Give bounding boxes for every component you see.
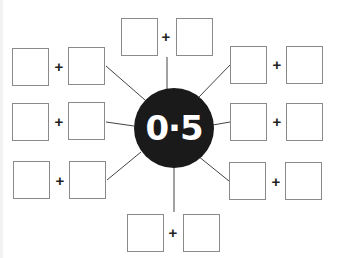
plus-sign-lower-right: + bbox=[270, 175, 282, 189]
answer-box-middle-left-a[interactable] bbox=[12, 103, 49, 141]
plus-sign-upper-left: + bbox=[53, 60, 65, 74]
answer-box-bottom-left[interactable] bbox=[127, 214, 164, 252]
answer-box-middle-right-b[interactable] bbox=[286, 103, 323, 141]
plus-sign-bottom: + bbox=[167, 226, 179, 240]
answer-box-bottom-right[interactable] bbox=[183, 214, 220, 252]
connector-upper-right bbox=[198, 65, 230, 98]
center-value: 0·5 bbox=[145, 108, 202, 148]
connector-lower-left bbox=[107, 152, 141, 180]
center-target-circle: 0·5 bbox=[134, 88, 214, 168]
connector-middle-right bbox=[213, 122, 230, 125]
plus-sign-lower-left: + bbox=[54, 174, 66, 188]
answer-box-lower-right-a[interactable] bbox=[229, 162, 266, 200]
plus-sign-middle-right: + bbox=[271, 115, 283, 129]
plus-sign-upper-right: + bbox=[271, 58, 283, 72]
answer-box-lower-left-b[interactable] bbox=[69, 161, 106, 199]
answer-box-lower-left-a[interactable] bbox=[13, 161, 50, 199]
connector-middle-left bbox=[106, 122, 134, 126]
answer-box-top-right[interactable] bbox=[176, 18, 213, 56]
connector-lower-right bbox=[198, 156, 229, 181]
plus-sign-middle-left: + bbox=[53, 115, 65, 129]
answer-box-upper-left-a[interactable] bbox=[12, 48, 49, 86]
plus-sign-top: + bbox=[160, 30, 172, 44]
answer-box-upper-right-b[interactable] bbox=[286, 46, 323, 84]
connector-upper-left bbox=[106, 66, 145, 100]
answer-box-lower-right-b[interactable] bbox=[285, 162, 322, 200]
answer-box-middle-left-b[interactable] bbox=[68, 102, 105, 140]
answer-box-top-left[interactable] bbox=[121, 18, 158, 56]
answer-box-upper-left-b[interactable] bbox=[68, 47, 105, 85]
answer-box-middle-right-a[interactable] bbox=[230, 103, 267, 141]
answer-box-upper-right-a[interactable] bbox=[230, 46, 267, 84]
